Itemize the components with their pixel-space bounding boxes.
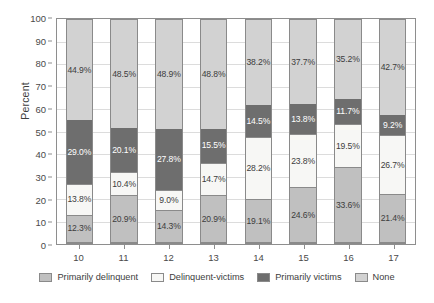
- legend-item[interactable]: Delinquent-victims: [151, 272, 244, 282]
- y-axis-tick-mark: [48, 63, 52, 64]
- bar-segment[interactable]: 48.8%: [201, 20, 226, 129]
- legend-label: Delinquent-victims: [169, 272, 244, 282]
- bar-segment-label: 14.3%: [157, 222, 181, 231]
- bar-segment[interactable]: 44.9%: [67, 20, 92, 120]
- legend-item[interactable]: Primarily victims: [257, 272, 341, 282]
- bar-segment-label: 48.8%: [202, 70, 226, 79]
- y-axis-tick-label: 100: [2, 13, 46, 24]
- legend-swatch: [257, 273, 270, 282]
- x-axis-tick-label: 14: [236, 245, 281, 263]
- bar-segment[interactable]: 11.7%: [335, 99, 360, 125]
- y-axis-tick-mark: [48, 222, 52, 223]
- bar-segment-label: 19.5%: [336, 142, 360, 151]
- stacked-bar[interactable]: 20.9%14.7%15.5%48.8%: [200, 19, 227, 244]
- bar-segment[interactable]: 20.9%: [111, 196, 136, 243]
- x-axis-tick-mark: [349, 245, 350, 249]
- bar-segment-label: 11.7%: [336, 107, 359, 116]
- bar-segment-label: 20.9%: [112, 215, 136, 224]
- legend-swatch: [151, 273, 164, 282]
- stacked-bar[interactable]: 12.3%13.8%29.0%44.9%: [66, 19, 93, 244]
- y-axis-tick-mark: [48, 245, 52, 246]
- bar-segment[interactable]: 24.6%: [290, 188, 315, 243]
- bar-segment[interactable]: 19.5%: [335, 125, 360, 168]
- x-axis-tick-label: 17: [371, 245, 416, 263]
- bar-segment[interactable]: 21.4%: [380, 195, 405, 243]
- bar-segment-label: 26.7%: [381, 161, 405, 170]
- y-axis-tick-label: 20: [2, 194, 46, 205]
- chart-legend: Primarily delinquentDelinquent-victimsPr…: [0, 272, 434, 282]
- bar-segment[interactable]: 23.8%: [290, 135, 315, 188]
- x-axis-tick-mark: [304, 245, 305, 249]
- bar-slot: 24.6%23.8%13.8%37.7%: [281, 19, 326, 244]
- bar-segment[interactable]: 12.3%: [67, 216, 92, 243]
- stacked-bar[interactable]: 33.6%19.5%11.7%35.2%: [334, 19, 361, 244]
- stacked-bar[interactable]: 19.1%28.2%14.5%38.2%: [245, 19, 272, 244]
- x-axis-tick-label: 12: [146, 245, 191, 263]
- bar-segment-label: 29.0%: [67, 148, 91, 157]
- bar-segment[interactable]: 48.9%: [156, 20, 181, 129]
- bar-segment-label: 23.8%: [291, 157, 315, 166]
- stacked-bar[interactable]: 20.9%10.4%20.1%48.5%: [110, 19, 137, 244]
- bar-segment[interactable]: 29.0%: [67, 120, 92, 185]
- stacked-bar[interactable]: 21.4%26.7%9.2%42.7%: [379, 19, 406, 244]
- bar-segment-label: 20.1%: [112, 146, 136, 155]
- legend-swatch: [39, 273, 52, 282]
- x-axis-tick-mark: [79, 245, 80, 249]
- bar-segment[interactable]: 9.2%: [380, 115, 405, 136]
- bar-segment[interactable]: 9.0%: [156, 191, 181, 211]
- legend-label: None: [373, 272, 395, 282]
- bar-segment-label: 13.8%: [291, 115, 315, 124]
- bar-segment-label: 21.4%: [381, 214, 405, 223]
- bar-segment[interactable]: 20.1%: [111, 128, 136, 173]
- bar-segment[interactable]: 35.2%: [335, 20, 360, 98]
- bar-segment[interactable]: 13.8%: [290, 104, 315, 135]
- stacked-bar[interactable]: 24.6%23.8%13.8%37.7%: [289, 19, 316, 244]
- x-axis-tick-mark: [169, 245, 170, 249]
- y-axis-tick-label: 50: [2, 126, 46, 137]
- bar-segment-label: 38.2%: [246, 58, 270, 67]
- bar-segment[interactable]: 33.6%: [335, 168, 360, 243]
- y-axis-tick-label: 60: [2, 103, 46, 114]
- legend-item[interactable]: None: [355, 272, 395, 282]
- bar-segment[interactable]: 27.8%: [156, 129, 181, 191]
- bar-segment[interactable]: 48.5%: [111, 20, 136, 128]
- x-axis-tick-label: 15: [281, 245, 326, 263]
- x-axis-tick-mark: [124, 245, 125, 249]
- bar-segment[interactable]: 14.3%: [156, 211, 181, 243]
- bar-segment-label: 44.9%: [67, 66, 91, 75]
- x-axis-tick-mark: [394, 245, 395, 249]
- y-axis-tick-label: 30: [2, 171, 46, 182]
- bar-segment-label: 28.2%: [246, 164, 270, 173]
- y-axis-tick-label: 90: [2, 35, 46, 46]
- bar-segment[interactable]: 15.5%: [201, 129, 226, 164]
- y-axis-tick-mark: [48, 131, 52, 132]
- bar-segment[interactable]: 28.2%: [246, 138, 271, 201]
- bar-slot: 33.6%19.5%11.7%35.2%: [326, 19, 371, 244]
- bar-segment[interactable]: 10.4%: [111, 173, 136, 196]
- y-axis-tick-label: 80: [2, 58, 46, 69]
- bar-slot: 20.9%10.4%20.1%48.5%: [102, 19, 147, 244]
- bar-segment-label: 10.4%: [112, 180, 136, 189]
- stacked-bar[interactable]: 14.3%9.0%27.8%48.9%: [155, 19, 182, 244]
- bar-segment[interactable]: 38.2%: [246, 20, 271, 105]
- x-axis-tick-mark: [259, 245, 260, 249]
- bar-segment[interactable]: 13.8%: [67, 185, 92, 216]
- legend-swatch: [355, 273, 368, 282]
- bar-segment-label: 13.8%: [67, 195, 91, 204]
- y-axis-tick-label: 10: [2, 217, 46, 228]
- bar-segment[interactable]: 14.7%: [201, 164, 226, 197]
- bar-segment[interactable]: 20.9%: [201, 196, 226, 243]
- bar-segment-label: 14.7%: [202, 175, 226, 184]
- bar-segment-label: 9.2%: [383, 121, 402, 130]
- bar-segment-label: 12.3%: [67, 224, 91, 233]
- bar-segment[interactable]: 26.7%: [380, 136, 405, 196]
- bar-segment-label: 48.9%: [157, 70, 181, 79]
- bar-segment[interactable]: 14.5%: [246, 105, 271, 137]
- legend-item[interactable]: Primarily delinquent: [39, 272, 138, 282]
- y-axis-tick-label: 70: [2, 81, 46, 92]
- y-axis-tick-mark: [48, 154, 52, 155]
- bar-segment-label: 33.6%: [336, 201, 360, 210]
- bar-segment[interactable]: 37.7%: [290, 20, 315, 104]
- bar-segment[interactable]: 19.1%: [246, 200, 271, 243]
- bar-segment[interactable]: 42.7%: [380, 20, 405, 115]
